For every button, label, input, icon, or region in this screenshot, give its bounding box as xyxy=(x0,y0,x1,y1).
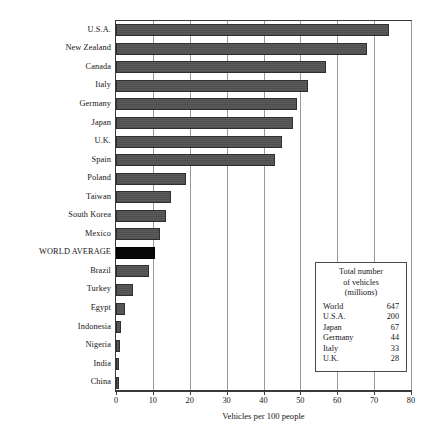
legend-row: World647 xyxy=(323,302,399,313)
category-label: Nigeria xyxy=(0,340,111,349)
category-label: WORLD AVERAGE xyxy=(0,247,111,256)
x-tick-label: 70 xyxy=(359,396,389,406)
bar-row xyxy=(116,21,413,40)
legend-row-name: U.S.A. xyxy=(323,312,346,323)
category-label: India xyxy=(0,359,111,368)
bar xyxy=(116,321,121,333)
bar-row xyxy=(116,188,413,207)
x-tick-80 xyxy=(411,391,412,395)
bar xyxy=(116,340,120,352)
x-tick-40 xyxy=(264,391,265,395)
bar xyxy=(116,210,166,222)
category-label: Italy xyxy=(0,80,111,89)
category-label: New Zealand xyxy=(0,43,111,52)
vehicles-per-100-people-bar-chart: U.S.A.New ZealandCanadaItalyGermanyJapan… xyxy=(0,0,435,444)
x-tick-label: 20 xyxy=(175,396,205,406)
x-tick-20 xyxy=(190,391,191,395)
bar xyxy=(116,136,282,148)
legend-title-line: (millions) xyxy=(323,288,399,299)
legend-row-value: 200 xyxy=(387,312,399,323)
bar xyxy=(116,228,160,240)
legend-rows: World647U.S.A.200Japan67Germany44Italy33… xyxy=(323,302,399,366)
category-label: Mexico xyxy=(0,229,111,238)
legend-row-name: World xyxy=(323,302,343,313)
bar xyxy=(116,303,125,315)
x-tick-0 xyxy=(116,391,117,395)
legend-row-name: Germany xyxy=(323,333,353,344)
legend-row-value: 44 xyxy=(391,333,399,344)
legend-row-value: 67 xyxy=(391,323,399,334)
bar-row xyxy=(116,77,413,96)
x-tick-label: 80 xyxy=(396,396,426,406)
bar-row xyxy=(116,225,413,244)
x-tick-label: 50 xyxy=(285,396,315,406)
category-axis-labels: U.S.A.New ZealandCanadaItalyGermanyJapan… xyxy=(0,20,111,391)
legend-row-name: Japan xyxy=(323,323,342,334)
x-tick-10 xyxy=(153,391,154,395)
category-label: Poland xyxy=(0,173,111,182)
bar xyxy=(116,24,389,36)
bar xyxy=(116,284,133,296)
legend-title-line: of vehicles xyxy=(323,278,399,289)
bar xyxy=(116,191,171,203)
category-label: Indonesia xyxy=(0,322,111,331)
bar xyxy=(116,247,155,259)
bar-row xyxy=(116,114,413,133)
bar xyxy=(116,43,367,55)
bar-row xyxy=(116,132,413,151)
bar-row xyxy=(116,207,413,226)
bar xyxy=(116,154,275,166)
x-tick-label: 60 xyxy=(322,396,352,406)
category-label: Japan xyxy=(0,118,111,127)
x-axis-title: Vehicles per 100 people xyxy=(115,411,412,421)
legend-row: Germany44 xyxy=(323,333,399,344)
legend-title: Total numberof vehicles(millions) xyxy=(323,267,399,299)
legend-row: U.K.28 xyxy=(323,354,399,365)
category-label: Brazil xyxy=(0,266,111,275)
bar xyxy=(116,173,186,185)
legend-row-value: 647 xyxy=(387,302,399,313)
legend-row-value: 28 xyxy=(391,354,399,365)
legend-row: Italy33 xyxy=(323,344,399,355)
bar xyxy=(116,80,308,92)
bar xyxy=(116,117,293,129)
x-tick-label: 30 xyxy=(212,396,242,406)
category-label: Egypt xyxy=(0,303,111,312)
legend-row-value: 33 xyxy=(391,344,399,355)
bar-row xyxy=(116,95,413,114)
category-label: U.K. xyxy=(0,136,111,145)
bar-row xyxy=(116,244,413,263)
x-tick-label: 40 xyxy=(249,396,279,406)
category-label: South Korea xyxy=(0,210,111,219)
category-label: Canada xyxy=(0,62,111,71)
legend-row-name: Italy xyxy=(323,344,338,355)
bar-row xyxy=(116,151,413,170)
legend-row: U.S.A.200 xyxy=(323,312,399,323)
bar-row xyxy=(116,373,413,392)
bar xyxy=(116,377,119,389)
category-label: Taiwan xyxy=(0,192,111,201)
bar xyxy=(116,265,149,277)
bar xyxy=(116,61,326,73)
bar-row xyxy=(116,169,413,188)
category-label: Turkey xyxy=(0,284,111,293)
x-tick-label: 0 xyxy=(101,396,131,406)
category-label: Germany xyxy=(0,99,111,108)
bar xyxy=(116,98,297,110)
legend-title-line: Total number xyxy=(323,267,399,278)
bar-row xyxy=(116,58,413,77)
x-tick-60 xyxy=(337,391,338,395)
x-tick-label: 10 xyxy=(138,396,168,406)
bar xyxy=(116,358,119,370)
legend-row-name: U.K. xyxy=(323,354,339,365)
x-tick-70 xyxy=(374,391,375,395)
category-label: U.S.A. xyxy=(0,25,111,34)
x-tick-50 xyxy=(300,391,301,395)
bar-row xyxy=(116,40,413,59)
category-label: Spain xyxy=(0,155,111,164)
category-label: China xyxy=(0,377,111,386)
legend-box: Total numberof vehicles(millions) World6… xyxy=(315,262,407,372)
legend-row: Japan67 xyxy=(323,323,399,334)
x-tick-30 xyxy=(227,391,228,395)
